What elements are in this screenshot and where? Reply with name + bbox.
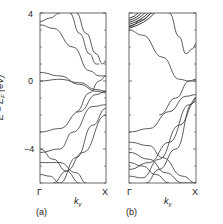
panel-a xyxy=(40,13,106,183)
y-tick-minus4: −4 xyxy=(24,144,34,154)
band-line xyxy=(169,13,196,54)
panel-b-x-label: X xyxy=(192,187,198,197)
panel-b xyxy=(129,13,196,183)
band-structure-plot xyxy=(0,0,223,224)
band-line xyxy=(129,30,196,81)
panel-a-x-label: X xyxy=(102,187,108,197)
panel-a-gamma-label: Γ xyxy=(37,187,42,197)
band-line xyxy=(40,25,106,76)
band-line xyxy=(159,79,196,115)
band-line xyxy=(129,142,196,183)
band-line xyxy=(40,79,106,91)
y-axis-label: E − EF (eV) xyxy=(0,75,6,120)
y-tick-0: 0 xyxy=(28,76,33,86)
panel-b-label: (b) xyxy=(126,207,137,217)
band-line xyxy=(40,91,106,132)
band-line xyxy=(40,13,60,22)
band-cluster-line xyxy=(129,13,141,20)
band-cluster-line xyxy=(129,13,138,18)
panel-a-ky-label: ky xyxy=(74,196,82,209)
panel-a-label: (a) xyxy=(36,207,47,217)
y-tick-4: 4 xyxy=(28,9,33,19)
band-line xyxy=(76,76,106,112)
band-line xyxy=(70,13,100,64)
band-line xyxy=(40,149,80,183)
panel-b-gamma-label: Γ xyxy=(127,187,132,197)
panel-b-ky-label: ky xyxy=(164,196,172,209)
band-line xyxy=(129,98,196,169)
